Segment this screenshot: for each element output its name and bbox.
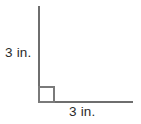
horizontal-leg-label: 3 in.	[69, 105, 96, 119]
geometry-figure-canvas: 3 in. 3 in.	[0, 0, 141, 124]
vertical-leg-label: 3 in.	[5, 46, 32, 60]
right-angle-square-icon	[38, 86, 55, 103]
